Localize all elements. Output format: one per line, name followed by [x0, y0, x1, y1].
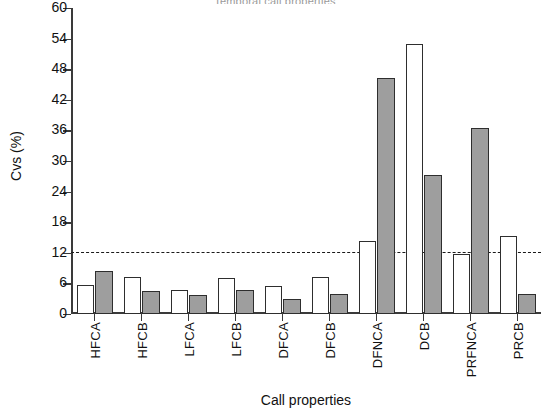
x-tick-PRCB [517, 314, 518, 321]
y-tick-label: 0 [59, 305, 67, 321]
chart-title: Temporal call properties [0, 0, 550, 4]
y-axis-line [71, 8, 73, 314]
bar-PRFNCA-white [453, 254, 471, 314]
bar-DFCB-white [312, 277, 330, 314]
x-tick-DFCB [329, 314, 330, 321]
bar-PRCB-gray [518, 294, 536, 314]
x-tick-DCB [423, 314, 424, 321]
x-tick-PRFNCA [470, 314, 471, 321]
y-tick-label: 60 [51, 0, 67, 15]
x-category-label-PRCB: PRCB [511, 322, 525, 359]
bar-DFCB-gray [330, 294, 348, 314]
x-category-label-PRFNCA: PRFNCA [464, 322, 478, 377]
bar-PRCB-white [500, 236, 518, 314]
bar-HFCA-gray [95, 271, 113, 314]
x-category-label-DCB: DCB [417, 322, 431, 350]
plot-area: 06121824303642485460 [71, 8, 541, 314]
y-tick-label: 30 [51, 152, 67, 168]
x-category-label-LFCB: LFCB [229, 322, 243, 356]
x-tick-DFCA [282, 314, 283, 321]
x-axis-label: Call properties [71, 392, 541, 408]
bar-LFCB-gray [236, 290, 254, 314]
y-tick-label: 6 [59, 274, 67, 290]
x-category-label-DFCB: DFCB [323, 322, 337, 359]
x-tick-DFNCA [376, 314, 377, 321]
bar-DFCA-gray [283, 299, 301, 314]
y-tick-label: 54 [51, 30, 67, 46]
bar-LFCB-white [218, 278, 236, 314]
bar-LFCA-gray [189, 295, 207, 314]
x-category-label-HFCA: HFCA [88, 322, 102, 359]
bar-DCB-white [406, 44, 424, 314]
y-axis-label: Cvs (%) [8, 96, 24, 216]
bar-PRFNCA-gray [471, 128, 489, 314]
x-category-label-LFCA: LFCA [182, 322, 196, 356]
bar-DCB-gray [424, 175, 442, 314]
y-tick-label: 42 [51, 91, 67, 107]
x-tick-LFCB [235, 314, 236, 321]
x-category-label-DFNCA: DFNCA [370, 322, 384, 368]
x-category-label-HFCB: HFCB [135, 322, 149, 359]
x-category-label-DFCA: DFCA [276, 322, 290, 359]
x-tick-LFCA [188, 314, 189, 321]
bar-LFCA-white [171, 290, 189, 314]
y-tick-label: 24 [51, 183, 67, 199]
y-tick-label: 12 [51, 244, 67, 260]
y-tick-label: 48 [51, 60, 67, 76]
bar-DFCA-white [265, 286, 283, 314]
chart-figure: Temporal call properties Cvs (%) 0612182… [0, 0, 550, 415]
bar-DFNCA-white [359, 241, 377, 314]
x-tick-HFCB [141, 314, 142, 321]
bar-HFCB-gray [142, 291, 160, 314]
bar-HFCA-white [77, 285, 95, 314]
bar-HFCB-white [124, 277, 142, 314]
y-tick-label: 18 [51, 213, 67, 229]
y-tick-label: 36 [51, 121, 67, 137]
x-tick-HFCA [94, 314, 95, 321]
bar-DFNCA-gray [377, 78, 395, 314]
